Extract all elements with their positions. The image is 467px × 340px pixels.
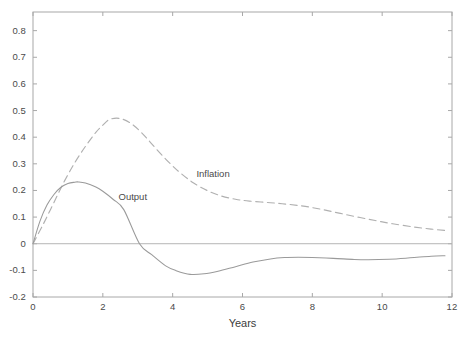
axes-frame (33, 12, 452, 297)
y-tick-label: 0.6 (0, 78, 26, 89)
y-tick-label: 0.2 (0, 184, 26, 195)
x-tick-label: 2 (89, 301, 117, 312)
chart-figure: -0.2-0.100.10.20.30.40.50.60.70.8 024681… (0, 0, 467, 340)
y-tick-marks (33, 31, 37, 297)
x-tick-label: 0 (19, 301, 47, 312)
y-tick-label: 0.4 (0, 131, 26, 142)
y-tick-label: 0 (0, 238, 26, 249)
right-tick-marks (448, 31, 452, 297)
y-tick-label: 0.3 (0, 158, 26, 169)
plot-frame (33, 12, 452, 297)
x-tick-label: 12 (438, 301, 466, 312)
top-tick-marks (33, 12, 452, 16)
series-annotation-output: Output (119, 191, 148, 202)
series-annotation-inflation: Inflation (196, 168, 229, 179)
x-tick-label: 8 (298, 301, 326, 312)
x-tick-label: 4 (159, 301, 187, 312)
x-tick-label: 10 (368, 301, 396, 312)
plot-canvas (0, 0, 467, 340)
x-tick-label: 6 (229, 301, 257, 312)
x-tick-marks (33, 293, 452, 297)
y-tick-label: 0.8 (0, 25, 26, 36)
y-tick-label: 0.5 (0, 105, 26, 116)
y-tick-label: -0.1 (0, 264, 26, 275)
series-line-inflation (33, 118, 445, 244)
y-tick-label: 0.1 (0, 211, 26, 222)
x-axis-title: Years (9, 317, 467, 329)
series-line-output (33, 182, 445, 275)
y-tick-label: 0.7 (0, 51, 26, 62)
